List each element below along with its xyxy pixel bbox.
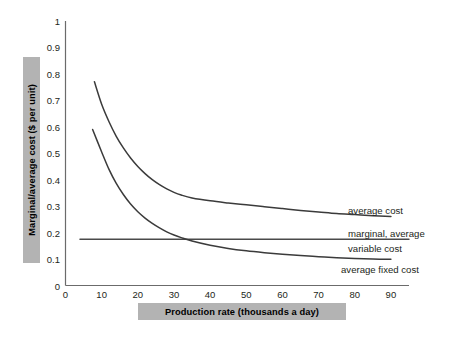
y-tick-label: 0.3 [38,201,60,212]
x-tick-label: 50 [241,289,252,300]
x-tick-label: 10 [96,289,107,300]
y-tick-label: 0.1 [38,254,60,265]
x-tick-label: 80 [349,289,360,300]
plot-area [0,0,464,338]
x-axis-title-label: Production rate (thousands a day) [165,307,319,317]
x-tick-label: 70 [313,289,324,300]
annotation-marginal-average: marginal, average [348,228,425,239]
x-tick-label: 60 [277,289,288,300]
x-tick-label: 90 [386,289,397,300]
y-tick-label: 0.9 [38,42,60,53]
y-tick-label: 0.2 [38,227,60,238]
x-tick-label: 40 [205,289,216,300]
x-axis-title: Production rate (thousands a day) [138,303,346,320]
y-tick-label: 1 [38,16,60,27]
cost-curves-chart: Marginal/average cost ($ per unit) Produ… [0,0,464,338]
annotation-average-fixed-cost: average fixed cost [341,264,419,275]
y-tick-label: 0.5 [38,148,60,159]
y-axis-title-label: Marginal/average cost ($ per unit) [27,84,37,236]
x-tick-label: 30 [169,289,180,300]
y-tick-label: 0.6 [38,121,60,132]
annotation-average-cost: average cost [348,205,403,216]
annotation-variable-cost: variable cost [348,243,402,254]
y-tick-label: 0.8 [38,68,60,79]
y-tick-label: 0.7 [38,95,60,106]
x-tick-label: 20 [133,289,144,300]
average-cost-curve [94,82,390,217]
y-tick-label: 0 [38,280,60,291]
y-tick-label: 0.4 [38,174,60,185]
x-tick-label: 0 [63,289,68,300]
